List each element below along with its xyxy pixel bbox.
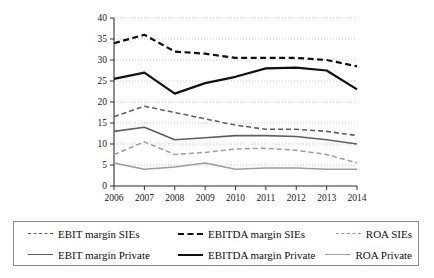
legend-swatch-icon bbox=[336, 233, 361, 234]
series-line bbox=[114, 142, 357, 163]
series-line bbox=[114, 163, 357, 169]
x-tick-label: 2006 bbox=[105, 193, 124, 203]
legend-item-roa-private: ROA Private bbox=[334, 249, 418, 261]
y-tick-label: 0 bbox=[102, 181, 107, 191]
legend-row: EBIT margin Private EBITDA margin Privat… bbox=[14, 244, 418, 265]
y-tick-label: 40 bbox=[98, 13, 108, 23]
legend-swatch-icon bbox=[178, 254, 203, 256]
x-tick-label: 2014 bbox=[348, 193, 367, 203]
chart-legend: EBIT margin SIEs EBITDA margin SIEs ROA … bbox=[13, 221, 419, 266]
legend-label: ROA Private bbox=[355, 249, 412, 261]
x-tick-label: 2009 bbox=[196, 193, 215, 203]
y-tick-labels: 0510152025303540 bbox=[98, 13, 108, 191]
legend-item-ebitda-margin-sies: EBITDA margin SIEs bbox=[174, 228, 334, 240]
legend-swatch-icon bbox=[178, 233, 203, 235]
legend-row: EBIT margin SIEs EBITDA margin SIEs ROA … bbox=[14, 223, 418, 244]
x-tick-label: 2013 bbox=[317, 193, 336, 203]
chart-figure: 0510152025303540 20062007200820092010201… bbox=[0, 0, 434, 278]
y-tick-label: 15 bbox=[98, 118, 108, 128]
legend-item-ebit-margin-private: EBIT margin Private bbox=[14, 249, 174, 261]
legend-label: EBITDA margin SIEs bbox=[208, 228, 305, 240]
y-tick-label: 10 bbox=[98, 139, 108, 149]
y-tick-label: 35 bbox=[98, 34, 108, 44]
plot-area: 0510152025303540 20062007200820092010201… bbox=[0, 0, 434, 212]
y-axis bbox=[110, 18, 114, 186]
y-tick-label: 5 bbox=[102, 160, 107, 170]
x-tick-label: 2012 bbox=[287, 193, 306, 203]
legend-label: EBIT margin SIEs bbox=[58, 228, 139, 240]
x-tick-labels: 200620072008200920102011201220132014 bbox=[105, 193, 367, 203]
y-tick-label: 25 bbox=[98, 76, 108, 86]
gridlines bbox=[114, 18, 357, 186]
y-tick-label: 30 bbox=[98, 55, 108, 65]
series-line bbox=[114, 35, 357, 67]
x-tick-label: 2007 bbox=[135, 193, 154, 203]
legend-item-ebitda-margin-private: EBITDA margin Private bbox=[174, 249, 334, 261]
legend-label: EBITDA margin Private bbox=[208, 249, 315, 261]
series-line bbox=[114, 127, 357, 144]
x-tick-label: 2008 bbox=[165, 193, 184, 203]
series-line bbox=[114, 68, 357, 94]
line-chart-svg: 0510152025303540 20062007200820092010201… bbox=[0, 0, 434, 212]
legend-swatch-icon bbox=[325, 254, 350, 255]
x-tick-label: 2010 bbox=[226, 193, 245, 203]
legend-swatch-icon bbox=[28, 254, 53, 255]
x-axis bbox=[114, 186, 357, 190]
x-tick-label: 2011 bbox=[257, 193, 276, 203]
y-tick-label: 20 bbox=[98, 97, 108, 107]
legend-label: EBIT margin Private bbox=[58, 249, 150, 261]
legend-item-roa-sies: ROA SIEs bbox=[334, 228, 418, 240]
legend-label: ROA SIEs bbox=[366, 228, 412, 240]
legend-item-ebit-margin-sies: EBIT margin SIEs bbox=[14, 228, 174, 240]
series-line bbox=[114, 106, 357, 135]
legend-swatch-icon bbox=[28, 233, 53, 234]
